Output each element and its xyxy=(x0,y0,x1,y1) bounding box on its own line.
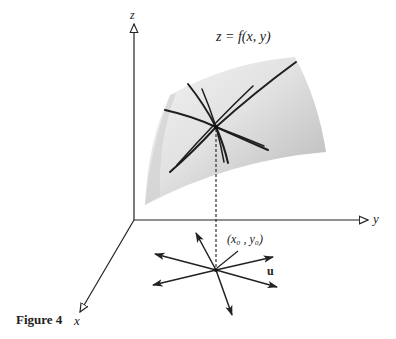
y-axis-label: y xyxy=(373,211,379,227)
figure-caption: Figure 4 xyxy=(16,312,62,328)
point-label: (x₀ , y₀) xyxy=(227,232,263,247)
x-axis-label: x xyxy=(74,313,80,329)
z-axis-label: z xyxy=(130,8,135,23)
surface-equation: z = f(x, y) xyxy=(216,29,271,45)
x-axis xyxy=(80,220,134,312)
vector-u-label: u xyxy=(267,264,274,279)
surface-z-f-x-y xyxy=(145,57,326,205)
figure-diagram xyxy=(0,0,396,339)
